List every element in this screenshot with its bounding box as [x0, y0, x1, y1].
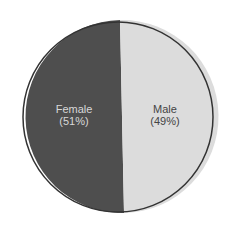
label-male: Male (49%)	[135, 103, 195, 127]
label-male-name: Male	[135, 103, 195, 115]
label-female: Female (51%)	[44, 103, 104, 127]
label-male-pct: (49%)	[135, 115, 195, 127]
label-female-name: Female	[44, 103, 104, 115]
label-female-pct: (51%)	[44, 115, 104, 127]
